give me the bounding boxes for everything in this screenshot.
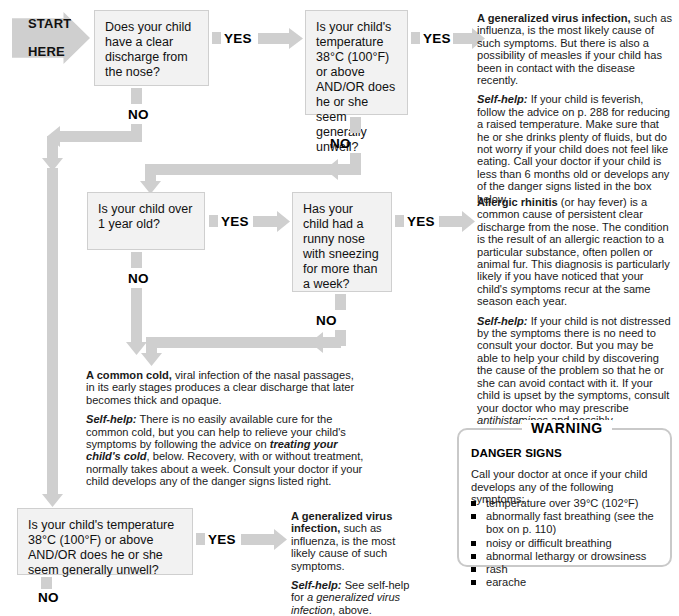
yes-connector-stub-q1 bbox=[212, 32, 221, 44]
no-label-q1: NO bbox=[128, 107, 149, 122]
warning-title: WARNING bbox=[522, 420, 612, 436]
danger-signs-list: temperature over 39°C (102°F)abnormally … bbox=[471, 497, 663, 589]
danger-signs-heading: DANGER SIGNS bbox=[471, 446, 562, 459]
arrowhead-into-q5 bbox=[42, 494, 63, 507]
result-generalized-virus-infection-2: A generalized virus infection, such as i… bbox=[291, 510, 419, 616]
no-elbow-head-q2 bbox=[325, 159, 338, 180]
selfhelp-label: Self-help: bbox=[477, 315, 528, 327]
no-arrowhead-q4 bbox=[141, 353, 162, 366]
danger-sign-text: abnormal lethargy or drowsiness bbox=[486, 550, 646, 562]
no-shaft-q1-down2 bbox=[47, 168, 58, 498]
danger-sign-item: temperature over 39°C (102°F) bbox=[471, 497, 663, 510]
no-shaft-q2-horizontal bbox=[145, 164, 355, 175]
yes-connector-stub-q5 bbox=[196, 533, 205, 545]
no-label-q2: NO bbox=[330, 136, 351, 151]
no-label-q5: NO bbox=[38, 590, 59, 605]
start-here-line1: START bbox=[20, 17, 71, 31]
yes-label-q5: YES bbox=[208, 532, 236, 547]
no-shaft-q1-horizontal bbox=[57, 131, 136, 142]
no-shaft-q3-vertical bbox=[131, 252, 142, 268]
result-cold-paragraph: A common cold, viral infection of the na… bbox=[86, 369, 364, 406]
selfhelp-label: Self-help: bbox=[477, 93, 528, 105]
selfhelp-body: If your child is feverish, follow the ad… bbox=[477, 93, 670, 204]
question-box-temperature-top[interactable]: Is your child's temperature 38°C (100°F)… bbox=[305, 10, 408, 115]
danger-sign-text: noisy or difficult breathing bbox=[486, 537, 612, 549]
result-rhinitis-title: Allergic rhinitis bbox=[477, 196, 558, 208]
yes-arrowhead-q3 bbox=[277, 211, 290, 232]
question-text: Is your child's temperature 38°C (100°F)… bbox=[28, 518, 174, 577]
question-box-runny-nose[interactable]: Has your child had a runny nose with sne… bbox=[292, 192, 392, 292]
start-here-line2: HERE bbox=[20, 45, 71, 59]
result-virus-title: A generalized virus infection, bbox=[477, 12, 631, 24]
selfhelp-part1: If your child is not distressed by the s… bbox=[477, 315, 671, 414]
no-shaft-q1-vertical bbox=[131, 88, 142, 104]
yes-label-q4: YES bbox=[407, 214, 435, 229]
no-elbow-head-q4 bbox=[310, 332, 323, 353]
yes-arrow-shaft-q3 bbox=[253, 216, 278, 227]
start-here-label: START HERE bbox=[12, 17, 71, 59]
bullet-square-icon bbox=[471, 514, 476, 519]
result-rhinitis-body: (or hay fever) is a common cause of pers… bbox=[477, 196, 670, 307]
danger-sign-item: abnormal lethargy or drowsiness bbox=[471, 550, 663, 563]
question-text: Is your child over 1 year old? bbox=[98, 202, 192, 231]
bullet-square-icon bbox=[471, 541, 476, 546]
yes-connector-stub-q3 bbox=[209, 215, 218, 227]
yes-arrow-shaft-q4 bbox=[439, 216, 463, 227]
no-label-q4: NO bbox=[316, 313, 337, 328]
yes-arrowhead-q4 bbox=[462, 211, 475, 232]
start-here-arrow: START HERE bbox=[12, 12, 90, 64]
question-text: Is your child's temperature 38°C (100°F)… bbox=[316, 20, 395, 154]
bullet-square-icon bbox=[471, 501, 476, 506]
danger-sign-item: rash bbox=[471, 563, 663, 576]
result-virus-paragraph: A generalized virus infection, such as i… bbox=[477, 12, 673, 86]
selfhelp-label: Self-help: bbox=[291, 579, 342, 591]
question-box-over-1-year[interactable]: Is your child over 1 year old? bbox=[87, 192, 205, 250]
no-shaft-q3-vertical2 bbox=[131, 288, 142, 346]
danger-sign-item: abnormally fast breathing (see the box o… bbox=[471, 510, 663, 536]
yes-arrow-shaft-q5 bbox=[241, 534, 275, 545]
danger-sign-text: rash bbox=[486, 563, 508, 575]
result-virus2-paragraph: A generalized virus infection, such as i… bbox=[291, 510, 419, 572]
yes-connector-stub-q4 bbox=[395, 215, 404, 227]
result-generalized-virus-infection: A generalized virus infection, such as i… bbox=[477, 12, 673, 205]
danger-sign-text: temperature over 39°C (102°F) bbox=[486, 497, 639, 509]
yes-connector-stub-q2 bbox=[411, 32, 420, 44]
question-box-temperature-bottom[interactable]: Is your child's temperature 38°C (100°F)… bbox=[17, 508, 193, 575]
selfhelp-label: Self-help: bbox=[86, 413, 137, 425]
result-cold-title: A common cold, bbox=[86, 369, 172, 381]
result-virus-selfhelp: Self-help: If your child is feverish, fo… bbox=[477, 93, 673, 205]
selfhelp-part2: , above. bbox=[332, 604, 371, 616]
result-cold-selfhelp: Self-help: There is no easily available … bbox=[86, 413, 364, 487]
danger-sign-item: earache bbox=[471, 576, 663, 589]
result-common-cold: A common cold, viral infection of the na… bbox=[86, 369, 364, 488]
yes-label-q2: YES bbox=[423, 31, 451, 46]
yes-arrow-shaft-q2 bbox=[453, 33, 475, 44]
danger-sign-text: abnormally fast breathing (see the box o… bbox=[486, 510, 654, 535]
result-rhinitis-paragraph: Allergic rhinitis (or hay fever) is a co… bbox=[477, 196, 673, 308]
result-allergic-rhinitis: Allergic rhinitis (or hay fever) is a co… bbox=[477, 196, 673, 451]
bullet-square-icon bbox=[471, 567, 476, 572]
no-shaft-q4-vertical bbox=[335, 294, 346, 310]
yes-label-q1: YES bbox=[224, 31, 252, 46]
question-text: Does your child have a clear discharge f… bbox=[105, 20, 191, 79]
yes-arrow-shaft-q1 bbox=[258, 33, 290, 44]
result-virus2-selfhelp: Self-help: See self-help for a generaliz… bbox=[291, 579, 419, 616]
no-label-q3: NO bbox=[128, 271, 149, 286]
yes-label-q3: YES bbox=[221, 214, 249, 229]
danger-sign-item: noisy or difficult breathing bbox=[471, 537, 663, 550]
no-shaft-q5-vertical bbox=[41, 577, 52, 589]
yes-arrowhead-q5 bbox=[274, 529, 287, 550]
question-box-clear-discharge[interactable]: Does your child have a clear discharge f… bbox=[94, 10, 209, 86]
yes-arrowhead-q1 bbox=[289, 28, 303, 49]
bullet-square-icon bbox=[471, 580, 476, 585]
no-shaft-q2-vertical bbox=[350, 117, 361, 133]
danger-sign-text: earache bbox=[486, 576, 526, 588]
bullet-square-icon bbox=[471, 554, 476, 559]
question-text: Has your child had a runny nose with sne… bbox=[303, 202, 379, 291]
